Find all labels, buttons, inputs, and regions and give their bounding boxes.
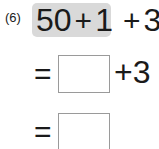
term-3: 3 (133, 54, 151, 90)
term-3: 3 (143, 1, 159, 39)
plus-sign: + (75, 2, 93, 40)
answer-box-2[interactable] (58, 113, 110, 149)
equals-sign: = (34, 117, 52, 147)
plus-sign: + (123, 2, 141, 40)
term-1: 1 (95, 1, 113, 39)
equals-sign: = (34, 59, 52, 89)
expression-line: 50+1+3 (36, 1, 159, 40)
step1-remainder: +3 (114, 54, 150, 90)
plus-sign: + (114, 54, 133, 90)
term-50: 50 (36, 1, 72, 39)
answer-box-1[interactable] (58, 55, 110, 93)
problem-number: (6) (5, 10, 21, 25)
